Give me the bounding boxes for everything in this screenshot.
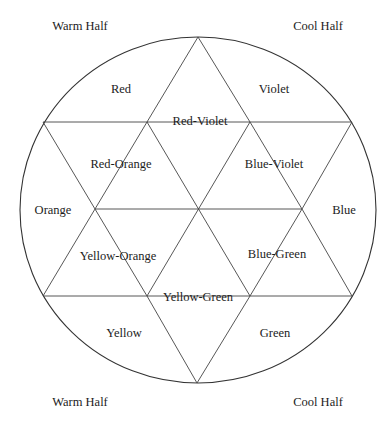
segment-blue: Blue: [332, 203, 356, 218]
segment-yellow: Yellow: [106, 326, 142, 341]
segment-orange: Orange: [35, 203, 72, 218]
segment-red-violet: Red-Violet: [173, 114, 228, 129]
cool-half-bottom-label: Cool Half: [293, 395, 343, 410]
segment-green: Green: [260, 326, 291, 341]
segment-red: Red: [111, 82, 131, 97]
cool-half-top-label: Cool Half: [293, 19, 343, 34]
warm-half-top-label: Warm Half: [52, 19, 108, 34]
segment-blue-violet: Blue-Violet: [245, 157, 303, 172]
segment-yellow-green: Yellow-Green: [163, 290, 233, 305]
segment-blue-green: Blue-Green: [248, 247, 306, 262]
warm-half-bottom-label: Warm Half: [52, 395, 108, 410]
star-lines: [43, 37, 352, 383]
segment-violet: Violet: [259, 82, 290, 97]
segment-yellow-orange: Yellow-Orange: [80, 249, 157, 264]
segment-red-orange: Red-Orange: [90, 157, 151, 172]
